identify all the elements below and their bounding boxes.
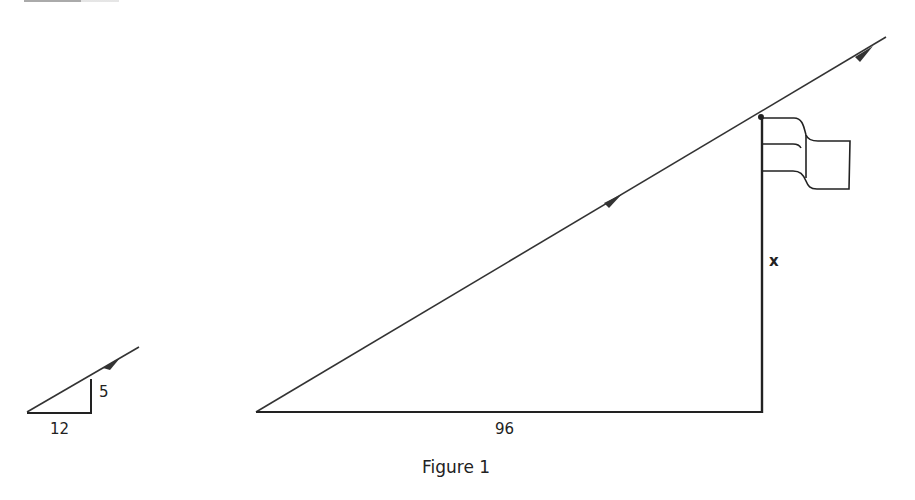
small-hypotenuse bbox=[27, 347, 139, 412]
large-triangle bbox=[256, 37, 886, 413]
small-vertical-label: 5 bbox=[99, 383, 109, 401]
small-legs bbox=[27, 379, 91, 413]
figure-canvas bbox=[0, 0, 915, 500]
small-horizontal-label: 12 bbox=[50, 420, 69, 438]
height-unknown-label: x bbox=[769, 252, 779, 270]
base-length-label: 96 bbox=[495, 420, 514, 438]
sun-ray-line bbox=[256, 37, 886, 412]
small-triangle bbox=[27, 347, 139, 413]
pole-top-icon bbox=[758, 114, 764, 120]
figure-caption: Figure 1 bbox=[422, 457, 490, 477]
flag-icon bbox=[762, 118, 850, 189]
small-arrow-icon bbox=[103, 358, 120, 370]
ray-arrow-middle-icon bbox=[604, 194, 622, 208]
